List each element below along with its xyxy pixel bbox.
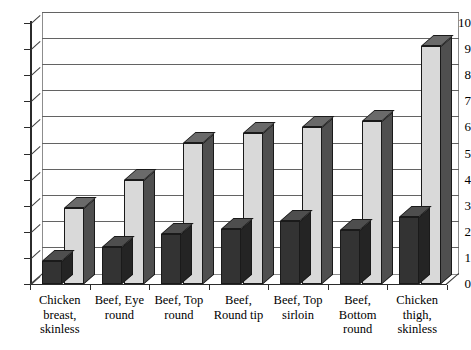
x-axis-category-label: Chickenthigh,skinless — [387, 293, 447, 337]
bar-series1[interactable] — [42, 261, 62, 284]
x-axis-category-label-line: Beef, — [209, 293, 269, 308]
x-axis-tick — [209, 285, 210, 290]
x-axis-category-label-line: round — [328, 322, 388, 337]
x-axis-tick — [387, 285, 388, 290]
x-axis-tick — [268, 285, 269, 290]
x-axis-tick — [149, 285, 150, 290]
bar-front-face — [340, 230, 360, 284]
bar-side-face — [300, 212, 311, 284]
bar-front-face — [102, 247, 122, 284]
x-axis-category-label-line: Beef, — [328, 293, 388, 308]
bar-side-face — [241, 220, 252, 284]
x-axis-tick — [447, 285, 448, 290]
x-axis-category-label-line: Beef, Top — [149, 293, 209, 308]
x-axis-category-label-line: skinless — [30, 322, 90, 337]
bar-front-face — [221, 229, 241, 284]
x-axis-category-label-line: sirloin — [268, 308, 328, 323]
x-axis-category-label-line: thigh, — [387, 308, 447, 323]
bar-side-face — [144, 170, 155, 284]
bar-side-face — [263, 123, 274, 284]
bar-front-face — [42, 261, 62, 284]
bar-series1[interactable] — [340, 230, 360, 284]
bar-chart: 012345678910 Chickenbreast,skinlessBeef,… — [0, 0, 471, 350]
bar-side-face — [181, 225, 192, 284]
x-axis-category-label-line: round — [90, 308, 150, 323]
x-axis-tick — [30, 285, 31, 290]
x-axis-category-label-line: Beef, Eye — [90, 293, 150, 308]
x-axis-category-label-line: breast, — [30, 308, 90, 323]
bar-series1[interactable] — [280, 221, 300, 284]
bar-side-face — [382, 111, 393, 284]
x-axis-category-label-line: Beef, Top — [268, 293, 328, 308]
x-axis-category-label-line: round — [149, 308, 209, 323]
x-axis-category-label: Beef,Bottomround — [328, 293, 388, 337]
x-axis-category-label: Beef, Eyeround — [90, 293, 150, 322]
bar-side-face — [84, 199, 95, 284]
bar-side-face — [419, 208, 430, 284]
x-axis-category-label-line: Bottom — [328, 308, 388, 323]
bar-series1[interactable] — [399, 217, 419, 284]
bar-series1[interactable] — [161, 234, 181, 284]
x-axis-category-label-line: Chicken — [30, 293, 90, 308]
x-axis-category-label: Chickenbreast,skinless — [30, 293, 90, 337]
bar-side-face — [322, 118, 333, 284]
bar-side-face — [203, 133, 214, 283]
x-axis-category-label: Beef, Topsirloin — [268, 293, 328, 322]
x-axis-category-label: Beef,Round tip — [209, 293, 269, 322]
bar-side-face — [360, 221, 371, 284]
bar-series1[interactable] — [221, 229, 241, 284]
x-axis-category-label-line: Round tip — [209, 308, 269, 323]
x-axis-category-label: Beef, Topround — [149, 293, 209, 322]
x-axis-tick — [328, 285, 329, 290]
x-axis-category-label-line: skinless — [387, 322, 447, 337]
x-axis-tick — [90, 285, 91, 290]
bar-series1[interactable] — [102, 247, 122, 284]
x-axis-category-label-line: Chicken — [387, 293, 447, 308]
bar-side-face — [441, 37, 452, 284]
bar-front-face — [399, 217, 419, 284]
bar-front-face — [280, 221, 300, 284]
bar-front-face — [161, 234, 181, 284]
